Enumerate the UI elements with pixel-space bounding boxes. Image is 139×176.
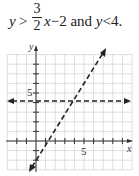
y-axis-arrow-icon <box>34 45 38 51</box>
y-axis-label: y <box>28 41 34 52</box>
graph: y x 5 5 <box>0 0 139 176</box>
arrow-left-icon <box>7 98 14 104</box>
y-tick-label-5: 5 <box>27 86 33 98</box>
arrow-right-icon <box>124 98 131 104</box>
grid <box>7 55 132 170</box>
boundary-line-slope <box>32 53 103 167</box>
x-tick-label-5: 5 <box>81 145 87 157</box>
x-axis-label: x <box>126 143 132 154</box>
